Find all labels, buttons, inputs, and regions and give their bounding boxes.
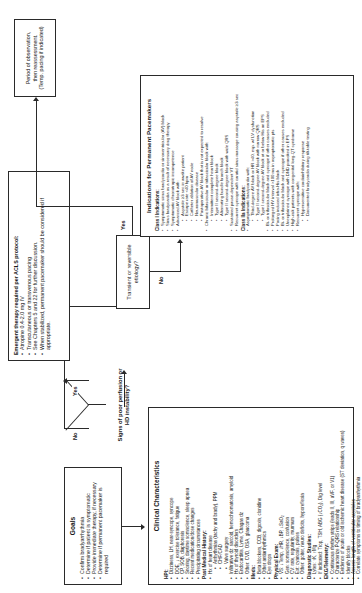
edge-transient-yes-horizontal xyxy=(36,99,37,207)
edge-decision-stem xyxy=(88,404,106,405)
edge-decision-yes-vertical xyxy=(64,380,89,381)
transient-label: Transient or reversible etiology? xyxy=(126,241,139,303)
list-item: Advanced AV block with: Asystole ≥3 sec … xyxy=(176,81,206,231)
edge-decision-no-vertical xyxy=(64,428,89,429)
class-iia-sublist-asymptomatic: Third-degree AV block or HR >40, esp. w/… xyxy=(251,81,266,226)
indications-title: Indications for Permanent Pacemakers xyxy=(145,81,152,231)
ekg-telemetry-list: Continuous rhythm strips (leads II, III,… xyxy=(330,413,362,579)
edge-transient-no-vertical xyxy=(150,271,180,272)
list-item: Hx of heart disease Arrhythmias (tachy a… xyxy=(208,413,229,579)
arrowhead-goals-to-clinical xyxy=(141,524,145,530)
list-item: Documented bradycardia during tilt-table… xyxy=(306,81,311,221)
pmh-sublist: Arrhythmias (tachy and brady), PPM CHF/C… xyxy=(213,413,229,574)
pmh-list: Hx of heart disease Arrhythmias (tachy a… xyxy=(208,413,250,579)
edge-no-to-transient-vertical xyxy=(64,306,116,307)
decision-signs-of-poor-perfusion: Signs of poor perfusion or HD instabilit… xyxy=(104,367,144,443)
decision-label: Signs of poor perfusion or HD instabilit… xyxy=(117,367,131,443)
edge-transient-yes xyxy=(132,207,133,235)
edge-label-no: No xyxy=(72,432,78,441)
class-i-sublist-advanced-av: Asystole ≥3 sec in awake patient Escape … xyxy=(181,81,206,226)
class-iia-sublist-recurrent-syncope: Hypersensitive cardioinhibitory response… xyxy=(301,81,311,226)
meds-list: Beta blockers, CCB, digoxin, clonidine O… xyxy=(257,413,273,579)
class-i-sublist-fascicular: Intermittent complete heart block Type I… xyxy=(210,81,230,226)
period-of-observation-box: Period of observation, then reassessment… xyxy=(14,19,56,97)
edge-label-transient-yes: Yes xyxy=(120,219,126,231)
edge-goals-to-clinical xyxy=(122,526,142,527)
goals-box: Goals Confirm bradyarrhythmia Determine … xyxy=(64,467,122,585)
list-item: Recurrent syncope with carotid sinus mas… xyxy=(235,81,240,231)
goals-title: Goals xyxy=(69,473,77,579)
arrowhead-transient-no xyxy=(177,239,183,243)
edge-transient-no-horizontal xyxy=(180,242,181,272)
list-item: Eye drops xyxy=(267,413,272,579)
arrowhead-period-of-observation xyxy=(33,97,39,101)
class-iia-list: Asymptomatic bradycardia with: Third-deg… xyxy=(246,81,310,231)
list-item: Other: goiter, neuro deficits, hyporefle… xyxy=(300,413,305,579)
edge-label-transient-no: No xyxy=(158,276,164,285)
list-item: If indicated: Trop, TSH, ABG (↓CO₂), Dig… xyxy=(318,413,323,579)
list-item: Correlate symptoms to timing of bradyarr… xyxy=(356,413,361,579)
period-line-3: (Temp. pacing if indicated) xyxy=(38,25,44,91)
hpi-list: Dizziness, LH, near-syncope, syncope DOE… xyxy=(169,413,201,579)
physical-exam-list: VS: ↓Temp, ↓HR, ↓BP, ↓SaO₂ Gen: somnolen… xyxy=(279,413,305,579)
indications-for-permanent-pacemakers-box: Indications for Permanent Pacemakers Cla… xyxy=(140,75,354,237)
flowchart-canvas: Goals Confirm bradyarrhythmia Determine … xyxy=(0,0,362,593)
list-item: Precipitating circumstances xyxy=(196,413,201,579)
list-item: Other: CVD, OSA, glaucoma xyxy=(245,413,250,579)
list-item: Recurrent syncope with: Hypersensitive c… xyxy=(296,81,311,231)
list-item: When stabilized, permanent pacemaker sho… xyxy=(39,177,52,355)
list-item: Asymptomatic bradycardia with: Third-deg… xyxy=(246,81,266,231)
clinical-title: Clinical Characteristics xyxy=(153,413,161,579)
goals-list: Confirm bradyarrhythmia Determine if pat… xyxy=(79,473,110,579)
diagnostic-studies-list: Lytes: ↑K, ↑Mg If indicated: Trop, TSH, … xyxy=(312,413,323,579)
clinical-characteristics-box: Clinical Characteristics HPI: Dizziness,… xyxy=(148,407,354,585)
edge-label-yes: Yes xyxy=(72,385,78,397)
list-item: Determine if permanent pacemaker is requ… xyxy=(97,473,109,579)
emergent-therapy-box: Emergent therapy required per ACLS proto… xyxy=(8,171,70,361)
list-item: Chronic bifascicular or trifascicular bl… xyxy=(205,81,230,231)
edge-decision-no-diagonal xyxy=(65,405,88,431)
class-i-list: Symptomatic sinus bradycardia or sinoven… xyxy=(161,81,240,231)
decision-transient-reversible-etiology: Transient or reversible etiology? xyxy=(116,235,150,309)
edge-transient-yes-vertical xyxy=(36,206,133,207)
page-rotation-wrapper: Goals Confirm bradyarrhythmia Determine … xyxy=(0,0,362,593)
